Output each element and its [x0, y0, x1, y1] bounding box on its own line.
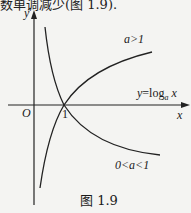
origin-label: O — [22, 106, 31, 121]
y-axis-arrow-icon — [31, 10, 37, 19]
function-label: y=loga x — [137, 86, 177, 102]
curve-label-a-gt-1: a>1 — [124, 32, 144, 47]
y-axis-label: y — [24, 6, 29, 21]
figure-caption: 图 1.9 — [80, 190, 118, 209]
curve-label-a-lt-1: 0<a<1 — [115, 158, 149, 173]
point-one-label: 1 — [62, 107, 68, 122]
x-axis-label: x — [177, 108, 182, 123]
x-axis-arrow-icon — [181, 102, 190, 108]
